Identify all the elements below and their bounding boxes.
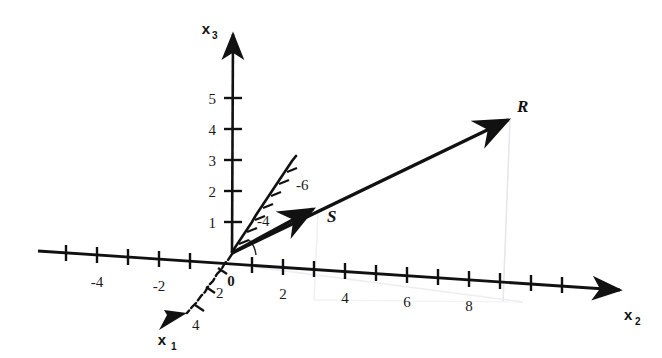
tick-x2-8: 8 [465,298,473,314]
axis-label-x2: x [624,306,633,323]
vector-s-label: S [327,207,336,226]
tick-x2-2: 2 [279,286,287,302]
tick-x1-4: 4 [192,317,200,333]
axis-x3: 1 2 3 4 5 x 3 [202,20,242,253]
tick-x3-5: 5 [209,91,217,107]
coordinate-system-plot: 1 2 3 4 5 x 3 [0,0,662,358]
tick-x3-2: 2 [209,184,217,200]
tick-x1-neg4: -4 [257,213,270,229]
tick-x2-neg4: -4 [91,274,104,290]
axis-label-x1-subscript: 1 [171,341,177,352]
vector-r-label: R [516,97,528,116]
axis-label-x2-subscript: 2 [635,316,641,327]
axis-x1-negative: -4 -6 [232,156,309,252]
axis-label-x1: x [158,331,167,348]
tick-x3-4: 4 [209,122,217,138]
axis-label-x3-subscript: 3 [212,30,218,41]
tick-x3-3: 3 [209,153,217,169]
tick-x3-1: 1 [209,215,217,231]
tick-x1-2: 2 [216,285,224,301]
vector-diagram-figure: 1 2 3 4 5 x 3 [0,0,662,358]
axis-x1-positive: 2 4 x 1 [158,254,232,352]
tick-x1-neg6: -6 [296,177,309,193]
axis-label-x3: x [202,20,211,37]
tick-x2-4: 4 [341,290,349,306]
axis-x2: -4 -2 2 4 6 8 x 2 [38,245,641,327]
origin-label: 0 [227,273,235,289]
tick-x2-neg2: -2 [153,278,166,294]
tick-x2-6: 6 [403,294,411,310]
